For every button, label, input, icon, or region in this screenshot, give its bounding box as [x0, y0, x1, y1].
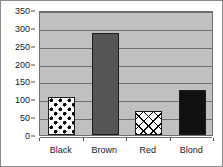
gridline [40, 30, 212, 31]
y-tick-mark [31, 82, 35, 83]
bar-brown [92, 33, 119, 135]
x-tick-mark [83, 138, 84, 141]
y-tick-label: 150 [15, 78, 30, 87]
y-tick-label: 0 [25, 132, 30, 141]
y-tick-label: 200 [15, 60, 30, 69]
x-tick-label-black: Black [50, 145, 72, 155]
x-tick-label-blond: Blond [180, 145, 203, 155]
y-tick-label: 250 [15, 42, 30, 51]
y-tick-label: 300 [15, 24, 30, 33]
bar-blond [179, 90, 206, 135]
x-tick-mark [170, 138, 171, 141]
x-tick-label-brown: Brown [91, 145, 117, 155]
plot-area [39, 11, 213, 136]
y-tick-mark [31, 118, 35, 119]
bar-chart: 050100150200250300350 BlackBrownRedBlond [0, 0, 223, 167]
gridline [40, 66, 212, 67]
gridline [40, 12, 212, 13]
x-tick-label-red: Red [139, 145, 156, 155]
x-axis: BlackBrownRedBlond [39, 138, 213, 162]
y-tick-mark [31, 64, 35, 65]
bar-red [135, 111, 162, 135]
y-tick-mark [31, 11, 35, 12]
x-tick-mark [126, 138, 127, 141]
y-tick-label: 100 [15, 96, 30, 105]
gridline [40, 83, 212, 84]
bar-black [48, 97, 75, 135]
x-tick-mark [39, 138, 40, 141]
y-tick-mark [31, 46, 35, 47]
y-tick-mark [31, 28, 35, 29]
gridline [40, 48, 212, 49]
y-tick-label: 50 [20, 114, 30, 123]
y-tick-label: 350 [15, 7, 30, 16]
x-tick-mark [213, 138, 214, 141]
y-axis: 050100150200250300350 [1, 11, 35, 136]
y-tick-mark [31, 100, 35, 101]
y-tick-mark [31, 136, 35, 137]
